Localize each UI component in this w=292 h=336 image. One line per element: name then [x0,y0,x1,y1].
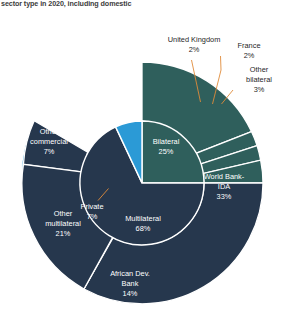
callout-united-kingdom-pct: 2% [189,45,200,54]
callout-france-pct: 2% [244,51,255,60]
label-bilateral-name: Bilateral [153,137,180,146]
label-china-pct: 18% [111,93,126,102]
label-private-name: Private [80,202,103,211]
label-world-bank-ida-pct: 33% [217,192,232,201]
label-other-commercial-line1: Other [40,127,59,136]
callout-other-bilateral-pct: 3% [254,85,265,94]
label-african-dev-bank-line2: Bank [122,279,139,288]
callout-other-bilateral-line2: bilateral [246,75,272,84]
nested-pie-chart: sector type in 2020, including domestic [0,0,292,336]
callout-united-kingdom-name: United Kingdom [168,35,221,44]
label-multilateral-name: Multilateral [125,214,161,223]
label-other-commercial-line2: commercial [30,137,68,146]
label-bilateral-pct: 25% [159,147,174,156]
label-other-multilateral-line1: Other [54,209,73,218]
label-african-dev-bank-line1: African Dev. [110,269,150,278]
chart-svg: China 18% Other commercial 7% World Bank… [0,0,292,336]
label-other-multilateral-line2: multilateral [45,219,81,228]
label-african-dev-bank-pct: 14% [123,289,138,298]
label-other-multilateral-pct: 21% [56,229,71,238]
callout-france-name: France [237,41,260,50]
label-multilateral-pct: 68% [136,224,151,233]
label-private-pct: 7% [87,212,98,221]
label-world-bank-ida-line2: IDA [218,182,230,191]
label-other-commercial-pct: 7% [44,147,55,156]
callout-other-bilateral-line1: Other [250,65,269,74]
label-world-bank-ida-line1: World Bank- [204,172,245,181]
label-china-name: China [108,83,128,92]
